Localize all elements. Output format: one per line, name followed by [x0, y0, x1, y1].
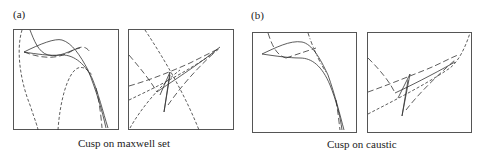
panel-a-right-plot: [129, 30, 234, 131]
panel-a-left-plot: [14, 30, 119, 131]
panel-b-right-plot: [368, 33, 472, 133]
caption-a: Cusp on maxwell set: [78, 137, 170, 149]
diagram-canvas: [0, 0, 481, 155]
panel-b-left-plot: [253, 33, 357, 133]
caption-b: Cusp on caustic: [327, 138, 397, 150]
